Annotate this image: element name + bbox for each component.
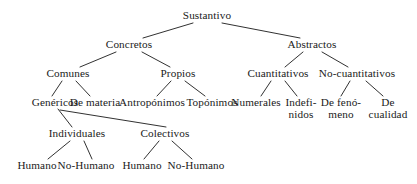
tree-node-numerales: Numerales [231, 97, 280, 109]
tree-edge-comunes-genericos [52, 81, 62, 96]
tree-node-label-cuantitativos: Cuantitativos [247, 68, 308, 80]
tree-node-label-de-fenomeno-line1: De fenó- [321, 97, 361, 109]
tree-node-label-no-humano-col: No-Humano [168, 160, 225, 172]
tree-node-toponimos: Topónimos [186, 97, 237, 109]
tree-node-indefinidos: Indefi-nidos [285, 97, 316, 120]
tree-node-label-toponimos: Topónimos [186, 97, 237, 109]
taxonomy-tree-diagram: SustantivoConcretosAbstractosComunesProp… [0, 0, 417, 184]
tree-node-label-antroponimos: Antropónimos [119, 97, 185, 109]
tree-node-sustantivo: Sustantivo [183, 10, 231, 22]
tree-edge-no-cuantitativos-de-fenomeno [341, 81, 350, 96]
tree-node-antroponimos: Antropónimos [119, 97, 185, 109]
tree-node-abstractos: Abstractos [288, 39, 337, 51]
tree-node-label-humano-col: Humano [122, 160, 161, 172]
tree-node-label-propios: Propios [161, 68, 196, 80]
tree-edge-sustantivo-concretos [143, 23, 193, 38]
edge-layer [0, 0, 417, 184]
tree-node-label-numerales: Numerales [231, 97, 280, 109]
tree-edge-colectivos-no-humano [172, 141, 192, 159]
tree-edge-abstractos-cuantitativos [285, 52, 303, 67]
tree-edge-genericos-colectivos [60, 110, 166, 127]
tree-node-humano-col: Humano [122, 160, 161, 172]
tree-node-label-indefinidos-line1: Indefi- [285, 97, 316, 109]
tree-node-no-humano-col: No-Humano [168, 160, 225, 172]
tree-node-propios: Propios [161, 68, 196, 80]
tree-node-label-sustantivo: Sustantivo [183, 10, 231, 22]
tree-edge-comunes-de-materia [76, 81, 90, 96]
tree-edge-individuales-no-humano [84, 141, 92, 159]
tree-node-label-colectivos: Colectivos [141, 128, 190, 140]
tree-node-label-comunes: Comunes [46, 68, 89, 80]
tree-node-individuales: Individuales [49, 128, 106, 140]
tree-node-no-humano-ind: No-Humano [58, 160, 115, 172]
tree-node-colectivos: Colectivos [141, 128, 190, 140]
tree-edge-no-cuantitativos-de-cualidad [366, 81, 383, 96]
tree-node-label-concretos: Concretos [106, 39, 152, 51]
tree-node-label-de-materia: De materia [70, 97, 121, 109]
tree-edge-cuantitativos-indefinidos [285, 81, 297, 96]
tree-node-cuantitativos: Cuantitativos [247, 68, 308, 80]
tree-node-no-cuantitativos: No-cuantitativos [319, 68, 395, 80]
tree-edge-concretos-propios [142, 52, 170, 67]
tree-edge-individuales-humano [48, 141, 70, 159]
tree-node-label-indefinidos-line2: nidos [285, 108, 316, 120]
tree-node-label-de-fenomeno-line2: meno [321, 108, 361, 120]
tree-node-label-individuales: Individuales [49, 128, 106, 140]
tree-node-de-cualidad: Decualidad [369, 97, 408, 120]
tree-node-concretos: Concretos [106, 39, 152, 51]
tree-node-comunes: Comunes [46, 68, 89, 80]
tree-node-label-de-cualidad-line2: cualidad [369, 108, 408, 120]
tree-node-label-abstractos: Abstractos [288, 39, 337, 51]
tree-edge-sustantivo-abstractos [222, 23, 300, 38]
tree-edge-propios-toponimos [185, 81, 205, 96]
tree-node-de-fenomeno: De fenó-meno [321, 97, 361, 120]
tree-edge-concretos-comunes [80, 52, 116, 67]
tree-node-label-de-cualidad-line1: De [369, 97, 408, 109]
tree-edge-cuantitativos-numerales [261, 81, 271, 96]
tree-edge-propios-antroponimos [157, 81, 171, 96]
tree-node-label-humano-ind: Humano [17, 160, 56, 172]
tree-edge-colectivos-humano [144, 141, 159, 159]
tree-node-label-no-cuantitativos: No-cuantitativos [319, 68, 395, 80]
tree-node-label-no-humano-ind: No-Humano [58, 160, 115, 172]
tree-edge-abstractos-no-cuantitativos [322, 52, 348, 67]
tree-node-humano-ind: Humano [17, 160, 56, 172]
tree-node-de-materia: De materia [70, 97, 121, 109]
